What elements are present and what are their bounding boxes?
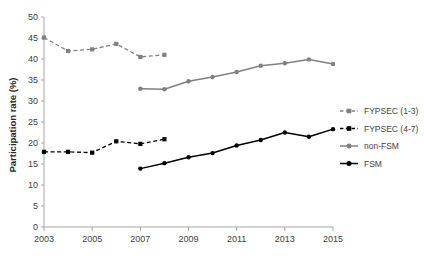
data-point-marker	[162, 53, 166, 57]
legend-label: non-FSM	[364, 141, 399, 151]
y-axis-title-text: Participation rate (%)	[7, 77, 18, 172]
y-axis-title: Participation rate (%)	[7, 77, 18, 172]
y-tick-label: 45	[28, 33, 38, 43]
data-point-marker	[307, 57, 311, 61]
y-tick-label: 5	[33, 201, 38, 211]
series-non-fsm	[138, 57, 335, 91]
data-point-marker	[283, 130, 287, 134]
data-point-marker	[66, 150, 70, 154]
legend-marker	[347, 126, 352, 131]
data-point-marker	[331, 62, 335, 66]
data-point-marker	[114, 42, 118, 46]
data-point-marker	[210, 151, 214, 155]
y-tick-label: 50	[28, 12, 38, 22]
data-point-marker	[210, 75, 214, 79]
legend-item[interactable]: FYPSEC (4-7)	[340, 124, 418, 134]
data-point-marker	[259, 138, 263, 142]
data-point-marker	[186, 79, 190, 83]
y-tick-label: 30	[28, 96, 38, 106]
series-line	[44, 38, 164, 57]
data-point-marker	[66, 49, 70, 53]
series-layer	[42, 35, 335, 170]
x-tick-label: 2013	[275, 234, 295, 244]
data-point-marker	[234, 143, 238, 147]
series-line	[44, 139, 164, 152]
x-tick-label: 2005	[82, 234, 102, 244]
y-tick-label: 0	[33, 222, 38, 232]
series-line	[140, 129, 333, 168]
chart-container: Participation rate (%) 05101520253035404…	[0, 0, 424, 264]
data-point-marker	[162, 87, 166, 91]
data-point-marker	[186, 155, 190, 159]
chart-legend: FYPSEC (1-3)FYPSEC (4-7)non-FSMFSM	[340, 106, 418, 169]
x-axis-ticks: 2003200520072009201120132015	[34, 227, 343, 244]
series-fsm	[138, 127, 335, 171]
data-point-marker	[331, 127, 335, 131]
data-point-marker	[283, 61, 287, 65]
y-tick-label: 25	[28, 117, 38, 127]
line-chart: Participation rate (%) 05101520253035404…	[0, 0, 424, 264]
legend-label: FYPSEC (4-7)	[364, 124, 418, 134]
y-tick-label: 35	[28, 75, 38, 85]
data-point-marker	[42, 150, 46, 154]
y-axis-ticks: 05101520253035404550	[28, 12, 44, 232]
data-point-marker	[162, 161, 166, 165]
data-point-marker	[307, 135, 311, 139]
data-point-marker	[259, 64, 263, 68]
y-tick-label: 15	[28, 159, 38, 169]
legend-item[interactable]: FSM	[340, 159, 382, 169]
data-point-marker	[138, 55, 142, 59]
legend-marker	[347, 161, 352, 166]
data-point-marker	[234, 70, 238, 74]
x-tick-label: 2007	[130, 234, 150, 244]
data-point-marker	[90, 47, 94, 51]
data-point-marker	[138, 142, 142, 146]
series-fypsec-4-7	[42, 137, 167, 155]
x-tick-label: 2009	[178, 234, 198, 244]
legend-marker	[347, 144, 352, 149]
y-tick-label: 10	[28, 180, 38, 190]
data-point-marker	[90, 151, 94, 155]
data-point-marker	[114, 139, 118, 143]
series-fypsec-1-3	[42, 35, 167, 59]
data-point-marker	[42, 35, 46, 39]
data-point-marker	[138, 166, 142, 170]
legend-label: FYPSEC (1-3)	[364, 106, 418, 116]
legend-label: FSM	[364, 159, 382, 169]
y-tick-label: 20	[28, 138, 38, 148]
legend-item[interactable]: FYPSEC (1-3)	[340, 106, 418, 116]
y-tick-label: 40	[28, 54, 38, 64]
x-tick-label: 2003	[34, 234, 54, 244]
x-tick-label: 2011	[227, 234, 246, 244]
series-line	[140, 59, 333, 89]
legend-marker	[347, 109, 352, 114]
data-point-marker	[138, 87, 142, 91]
legend-item[interactable]: non-FSM	[340, 141, 399, 151]
x-tick-label: 2015	[323, 234, 343, 244]
data-point-marker	[162, 137, 166, 141]
